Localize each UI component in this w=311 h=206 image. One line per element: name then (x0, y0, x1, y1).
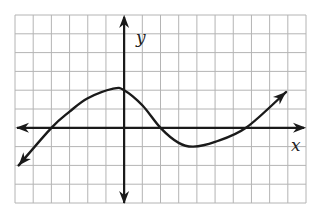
series (19, 88, 286, 166)
grid (15, 15, 306, 203)
function-graph: x y (0, 0, 311, 206)
y-axis-label: y (135, 27, 146, 47)
curve-curve (19, 88, 286, 166)
x-axis-label: x (291, 135, 301, 155)
